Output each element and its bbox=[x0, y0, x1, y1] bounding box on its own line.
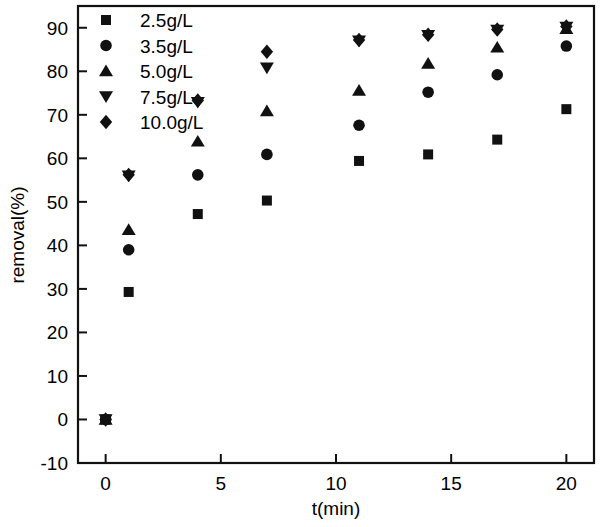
data-point bbox=[422, 28, 434, 42]
x-axis-title: t(min) bbox=[312, 498, 361, 519]
x-tick-label: 20 bbox=[556, 473, 577, 494]
data-point bbox=[192, 169, 204, 181]
data-point bbox=[352, 84, 366, 96]
data-point bbox=[423, 149, 433, 159]
y-axis-ticks: -100102030405060708090 bbox=[41, 18, 87, 474]
legend-marker bbox=[99, 65, 113, 77]
x-tick-label: 5 bbox=[216, 473, 227, 494]
data-point bbox=[260, 63, 274, 75]
y-tick-label: 60 bbox=[47, 148, 68, 169]
scatter-plot: -100102030405060708090 05101520 t(min) r… bbox=[0, 0, 609, 527]
y-tick-label: 50 bbox=[47, 192, 68, 213]
x-tick-label: 15 bbox=[441, 473, 462, 494]
y-tick-label: 30 bbox=[47, 279, 68, 300]
y-tick-label: 70 bbox=[47, 105, 68, 126]
data-point bbox=[122, 223, 136, 235]
chart-legend: 2.5g/L3.5g/L5.0g/L7.5g/L10.0g/L bbox=[99, 10, 203, 133]
y-tick-label: -10 bbox=[41, 453, 68, 474]
data-series bbox=[101, 104, 572, 424]
chart-container: -100102030405060708090 05101520 t(min) r… bbox=[0, 0, 609, 527]
y-tick-label: 20 bbox=[47, 322, 68, 343]
data-point bbox=[261, 149, 273, 161]
data-series bbox=[99, 22, 574, 426]
y-tick-label: 10 bbox=[47, 366, 68, 387]
legend-marker bbox=[101, 15, 111, 25]
data-point bbox=[492, 135, 502, 145]
y-tick-label: 80 bbox=[47, 61, 68, 82]
y-tick-label: 0 bbox=[57, 409, 68, 430]
y-axis-title: removal(%) bbox=[7, 186, 28, 283]
legend-label: 3.5g/L bbox=[140, 36, 193, 57]
legend-label: 5.0g/L bbox=[140, 61, 193, 82]
legend-label: 10.0g/L bbox=[140, 112, 203, 133]
legend-marker bbox=[100, 40, 112, 52]
data-point bbox=[122, 168, 134, 182]
legend-marker bbox=[100, 115, 112, 129]
data-point bbox=[191, 135, 205, 147]
data-point bbox=[123, 244, 135, 256]
legend-label: 7.5g/L bbox=[140, 87, 193, 108]
legend-marker bbox=[99, 91, 113, 103]
data-point bbox=[490, 41, 504, 53]
legend-label: 2.5g/L bbox=[140, 10, 193, 31]
data-point bbox=[262, 196, 272, 206]
data-point bbox=[192, 93, 204, 107]
data-point bbox=[353, 33, 365, 47]
data-point bbox=[491, 22, 503, 36]
y-tick-label: 40 bbox=[47, 235, 68, 256]
x-axis-ticks: 05101520 bbox=[100, 454, 577, 494]
data-point bbox=[260, 104, 274, 116]
data-point bbox=[261, 45, 273, 59]
x-tick-label: 0 bbox=[100, 473, 111, 494]
data-point bbox=[193, 209, 203, 219]
data-point bbox=[124, 287, 134, 297]
data-point bbox=[354, 156, 364, 166]
data-series bbox=[99, 22, 574, 424]
data-point bbox=[561, 40, 573, 52]
data-point bbox=[491, 69, 503, 81]
data-point bbox=[422, 86, 434, 98]
data-point bbox=[421, 57, 435, 69]
x-tick-label: 10 bbox=[325, 473, 346, 494]
data-point bbox=[561, 104, 571, 114]
y-tick-label: 90 bbox=[47, 18, 68, 39]
data-point bbox=[353, 119, 365, 131]
